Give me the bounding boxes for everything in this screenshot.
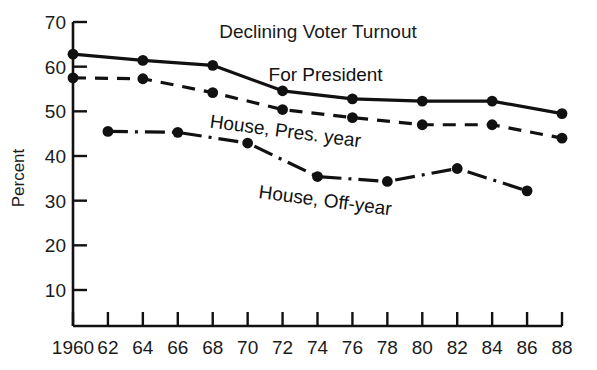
- x-tick-label: 80: [412, 337, 433, 358]
- x-tick-label: 88: [551, 337, 572, 358]
- x-tick-label: 78: [377, 337, 398, 358]
- x-tick-label: 82: [447, 337, 468, 358]
- data-point: [137, 55, 148, 66]
- data-point: [452, 163, 463, 174]
- x-tick-label: 66: [167, 337, 188, 358]
- data-point: [347, 112, 358, 123]
- x-tick-label: 84: [482, 337, 504, 358]
- data-point: [207, 60, 218, 71]
- x-tick-label: 1960: [52, 337, 94, 358]
- x-tick-label: 64: [132, 337, 154, 358]
- y-tick-label: 10: [45, 280, 66, 301]
- x-axis-ticks: 19606264666870727476788082848688: [52, 312, 573, 358]
- data-point: [522, 185, 533, 196]
- data-point: [172, 127, 183, 138]
- y-tick-label: 20: [45, 235, 66, 256]
- y-tick-label: 30: [45, 191, 66, 212]
- y-tick-label: 70: [45, 12, 66, 33]
- data-point: [103, 126, 114, 137]
- data-point: [487, 96, 498, 107]
- x-tick-label: 62: [97, 337, 118, 358]
- data-point: [312, 171, 323, 182]
- data-point: [137, 73, 148, 84]
- y-tick-label: 40: [45, 146, 66, 167]
- data-point: [277, 85, 288, 96]
- x-tick-label: 68: [202, 337, 223, 358]
- y-axis-title: Percent: [9, 148, 28, 207]
- data-point: [277, 104, 288, 115]
- x-tick-label: 76: [342, 337, 363, 358]
- x-tick-label: 74: [307, 337, 329, 358]
- data-point: [68, 72, 79, 83]
- x-tick-label: 72: [272, 337, 293, 358]
- data-point: [417, 119, 428, 130]
- data-point: [557, 108, 568, 119]
- data-point: [207, 87, 218, 98]
- chart-title: Declining Voter Turnout: [219, 21, 417, 42]
- chart-page: 10203040506070 1960626466687072747678808…: [0, 0, 597, 370]
- y-tick-label: 50: [45, 101, 66, 122]
- series-annotation: House, Off-year: [258, 181, 394, 219]
- series-annotation: For President: [269, 64, 384, 85]
- x-tick-label: 86: [517, 337, 538, 358]
- data-point: [347, 93, 358, 104]
- data-point: [68, 49, 79, 60]
- voter-turnout-line-chart: 10203040506070 1960626466687072747678808…: [0, 0, 597, 370]
- data-point: [487, 119, 498, 130]
- data-point: [417, 96, 428, 107]
- data-point: [557, 133, 568, 144]
- x-tick-label: 70: [237, 337, 258, 358]
- data-point: [382, 176, 393, 187]
- data-point: [242, 138, 253, 149]
- y-tick-label: 60: [45, 57, 66, 78]
